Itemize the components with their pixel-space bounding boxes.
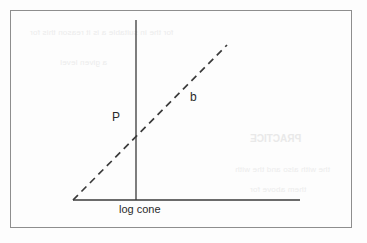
dashed-trend-line	[73, 45, 227, 200]
point-label-p: P	[112, 110, 120, 124]
slope-label-b: b	[190, 90, 197, 104]
figure-container: for the in suitable a is it reason this …	[0, 0, 367, 243]
x-axis-label: log cone	[119, 203, 161, 215]
plot-area	[0, 0, 367, 243]
